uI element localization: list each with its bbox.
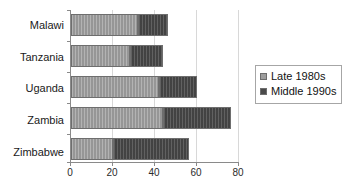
legend-swatch-icon-late-1980s <box>260 73 267 80</box>
gridline-80 <box>238 10 239 162</box>
x-axis-label-60: 60 <box>183 168 209 178</box>
bar-segment-late-1980s[interactable] <box>71 14 138 36</box>
bar-segment-middle-1990s[interactable] <box>113 138 189 160</box>
legend-item-middle-1990s[interactable]: Middle 1990s <box>260 84 336 99</box>
legend-item-late-1980s[interactable]: Late 1980s <box>260 69 336 84</box>
bar-segment-middle-1990s[interactable] <box>163 107 230 129</box>
y-axis-tick <box>67 103 70 104</box>
bar-segment-late-1980s[interactable] <box>71 45 130 67</box>
x-axis-label-0: 0 <box>57 168 83 178</box>
y-axis-tick <box>67 134 70 135</box>
legend-label-middle-1990s: Middle 1990s <box>271 86 336 97</box>
bar-segment-late-1980s[interactable] <box>71 138 113 160</box>
bar-segment-middle-1990s[interactable] <box>130 45 164 67</box>
bar-chart: Malawi Tanzania Uganda Zambia Zimbabwe <box>0 0 362 195</box>
category-label-uganda: Uganda <box>0 83 64 94</box>
category-label-tanzania: Tanzania <box>0 52 64 63</box>
x-axis-label-20: 20 <box>99 168 125 178</box>
x-axis-tick <box>112 162 113 166</box>
x-axis-tick <box>196 162 197 166</box>
category-axis-labels: Malawi Tanzania Uganda Zambia Zimbabwe <box>0 8 64 163</box>
category-label-zimbabwe: Zimbabwe <box>0 147 64 158</box>
bar-segment-middle-1990s[interactable] <box>159 76 197 98</box>
y-axis-tick <box>67 72 70 73</box>
plot-area: 0 20 40 60 80 <box>70 10 239 163</box>
x-axis-tick <box>154 162 155 166</box>
chart-legend: Late 1980s Middle 1990s <box>255 65 342 104</box>
legend-label-late-1980s: Late 1980s <box>271 71 325 82</box>
bar-segment-late-1980s[interactable] <box>71 76 159 98</box>
y-axis-tick <box>67 41 70 42</box>
bar-segment-late-1980s[interactable] <box>71 107 163 129</box>
category-label-zambia: Zambia <box>0 115 64 126</box>
x-axis-tick <box>70 162 71 166</box>
category-label-malawi: Malawi <box>0 20 64 31</box>
x-axis-tick <box>238 162 239 166</box>
legend-swatch-icon-middle-1990s <box>260 88 267 95</box>
y-axis-tick <box>67 10 70 11</box>
x-axis-label-80: 80 <box>225 168 251 178</box>
x-axis-label-40: 40 <box>141 168 167 178</box>
bar-segment-middle-1990s[interactable] <box>138 14 167 36</box>
